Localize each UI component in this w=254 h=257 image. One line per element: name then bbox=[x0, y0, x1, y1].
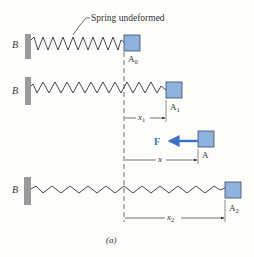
row-a1: B A1 x1 bbox=[12, 77, 182, 123]
annotation-spring-undeformed: Spring undeformed bbox=[91, 13, 165, 23]
spring-2 bbox=[31, 186, 225, 193]
wall-b-0 bbox=[25, 34, 31, 59]
row-a2: B A2 x2 bbox=[12, 177, 241, 223]
wall-label-b-1: B bbox=[12, 85, 18, 96]
spring-1 bbox=[31, 82, 166, 93]
force-label-f: F bbox=[154, 136, 160, 147]
dimension-label-x: x bbox=[157, 154, 162, 164]
wall-b-2 bbox=[24, 177, 31, 205]
annotation-leader bbox=[73, 18, 90, 35]
block-label-a1: A1 bbox=[170, 102, 180, 113]
figure-caption: (a) bbox=[106, 235, 117, 245]
block-a0 bbox=[124, 35, 140, 51]
wall-label-b-2: B bbox=[12, 184, 18, 195]
wall-label-b-0: B bbox=[12, 39, 18, 50]
block-label-a2: A2 bbox=[229, 203, 239, 214]
spring-0 bbox=[31, 37, 124, 50]
block-a2 bbox=[225, 182, 241, 198]
block-label-a0: A0 bbox=[128, 54, 138, 65]
block-a1 bbox=[166, 82, 182, 98]
block-label-a: A bbox=[202, 150, 209, 160]
row-undeformed: B A0 Spring undeformed bbox=[12, 13, 165, 65]
row-a: F A x bbox=[125, 131, 214, 164]
block-a bbox=[198, 131, 214, 147]
wall-b-1 bbox=[25, 77, 31, 105]
spring-diagram: B A0 Spring undeformed B A1 x1 F A x B bbox=[0, 0, 254, 257]
